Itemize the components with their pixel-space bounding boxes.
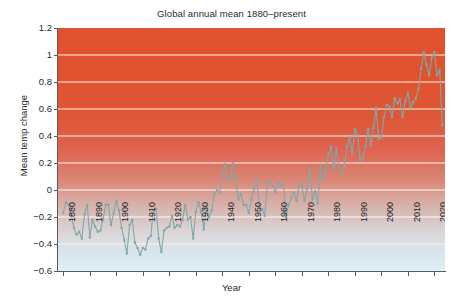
data-point-marker (367, 128, 370, 131)
data-point-marker (322, 179, 325, 182)
y-tick-mark (54, 217, 58, 218)
x-tick-label: 2000 (385, 202, 395, 222)
y-tick-mark (54, 163, 58, 164)
x-tick-mark (434, 272, 435, 276)
x-tick-mark (408, 272, 409, 276)
x-tick-label: 1960 (279, 202, 289, 222)
data-point-marker (189, 216, 192, 219)
data-point-marker (248, 212, 251, 215)
data-point-marker (237, 198, 240, 201)
data-point-marker (428, 74, 431, 77)
data-point-marker (282, 182, 285, 185)
x-tick-label: 1910 (147, 202, 157, 222)
data-point-marker (157, 237, 160, 240)
data-point-marker (271, 185, 274, 188)
data-point-marker (385, 104, 388, 107)
data-point-marker (380, 136, 383, 139)
x-tick-mark (143, 272, 144, 276)
data-point-marker (277, 181, 280, 184)
data-point-marker (420, 67, 423, 70)
data-point-marker (131, 218, 134, 221)
data-point-marker (203, 228, 206, 231)
x-tick-mark (196, 272, 197, 276)
data-point-marker (409, 106, 412, 109)
data-point-marker (338, 167, 341, 170)
data-point-marker (242, 204, 245, 207)
data-point-marker (393, 97, 396, 100)
data-point-marker (168, 225, 171, 228)
data-point-marker (112, 212, 115, 215)
data-point-marker (279, 185, 282, 188)
data-point-marker (375, 106, 378, 109)
data-point-marker (213, 193, 216, 196)
data-point-marker (136, 247, 139, 250)
data-point-marker (399, 98, 402, 101)
x-tick-mark (116, 272, 117, 276)
x-tick-label: 1880 (67, 202, 77, 222)
data-point-marker (173, 227, 176, 230)
data-point-marker (75, 233, 78, 236)
x-tick-mark (355, 272, 356, 276)
data-point-marker (218, 191, 221, 194)
x-tick-mark (328, 272, 329, 276)
data-point-marker (269, 181, 272, 184)
data-point-marker (415, 97, 418, 100)
data-point-marker (264, 214, 267, 217)
y-tick-label: 0.4 (4, 130, 52, 141)
y-tick-mark (54, 244, 58, 245)
data-point-marker (163, 229, 166, 232)
data-point-marker (104, 204, 107, 207)
data-point-marker (150, 235, 153, 238)
data-point-marker (123, 239, 126, 242)
data-point-marker (97, 231, 100, 234)
data-point-marker (179, 225, 182, 228)
data-point-marker (396, 102, 399, 105)
data-point-marker (391, 116, 394, 119)
data-point-marker (139, 254, 142, 256)
chart-title: Global annual mean 1880–present (0, 8, 463, 19)
data-point-marker (295, 200, 298, 203)
x-tick-label: 1940 (226, 202, 236, 222)
data-point-marker (176, 224, 179, 227)
data-point-marker (253, 187, 256, 190)
data-point-marker (417, 88, 420, 91)
data-point-marker (107, 204, 110, 207)
y-tick-label: −0.6 (4, 265, 52, 276)
x-tick-label: 2010 (412, 202, 422, 222)
data-point-marker (311, 198, 314, 201)
x-tick-mark (63, 272, 64, 276)
data-point-marker (195, 210, 198, 213)
data-point-marker (110, 224, 113, 227)
data-point-marker (245, 204, 248, 207)
data-point-marker (306, 187, 309, 190)
data-point-marker (192, 237, 195, 240)
data-point-marker (301, 185, 304, 188)
y-tick-mark (54, 109, 58, 110)
x-tick-label: 2020 (438, 202, 445, 222)
x-tick-mark (275, 272, 276, 276)
data-point-marker (362, 158, 365, 161)
data-point-marker (431, 56, 434, 59)
data-point-marker (346, 146, 349, 149)
data-point-marker (134, 241, 137, 244)
data-point-marker (359, 159, 362, 162)
data-point-marker (319, 164, 322, 167)
x-tick-mark (249, 272, 250, 276)
data-point-marker (234, 177, 237, 180)
data-point-marker (356, 133, 359, 136)
data-point-marker (160, 251, 163, 254)
data-point-marker (226, 179, 229, 182)
data-point-marker (309, 167, 312, 170)
data-point-marker (423, 51, 426, 54)
x-tick-label: 1930 (200, 202, 210, 222)
data-point-marker (314, 190, 317, 193)
data-point-marker (240, 193, 243, 196)
y-tick-mark (54, 55, 58, 56)
data-point-marker (332, 170, 335, 173)
data-point-marker (324, 167, 327, 170)
data-point-marker (438, 69, 441, 72)
y-tick-label: 1 (4, 49, 52, 60)
data-point-marker (298, 182, 301, 185)
data-point-marker (256, 178, 258, 181)
x-tick-label: 1890 (94, 202, 104, 222)
